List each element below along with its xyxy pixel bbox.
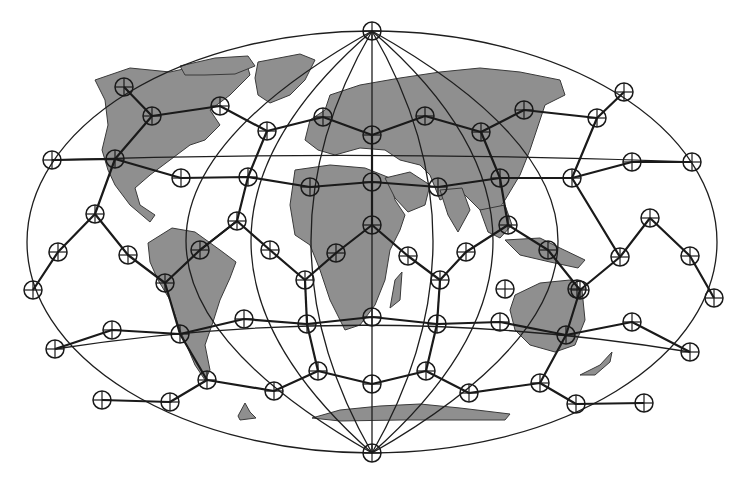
network-node [417,362,435,380]
network-node [115,78,133,96]
south-america [148,228,236,380]
network-node [161,393,179,411]
network-node [428,315,446,333]
network-node [93,391,111,409]
antarctica [312,404,510,421]
network-node [431,271,449,289]
network-node [156,274,174,292]
network-node [399,247,417,265]
network-node [327,244,345,262]
network-node [491,313,509,331]
network-node [563,169,581,187]
south-georgia-island [238,403,256,420]
network-node [568,280,586,298]
network-link [102,371,644,404]
network-node [472,123,490,141]
network-node [191,241,209,259]
network-node [228,212,246,230]
network-node [296,271,314,289]
network-node [681,343,699,361]
network-node [119,246,137,264]
network-node [623,153,641,171]
madagascar [390,272,402,308]
network-node [103,321,121,339]
north-pole-node [363,22,381,40]
network-node [615,83,633,101]
network-node [363,173,381,191]
indonesia [505,238,585,268]
network-node [301,178,319,196]
network-node [211,97,229,115]
network-node [198,371,216,389]
network-node [416,107,434,125]
network-node [531,374,549,392]
network-node [557,326,575,344]
network-node [143,107,161,125]
network-node [172,169,190,187]
network-node [49,243,67,261]
network-node [43,151,61,169]
network-node [681,247,699,265]
land-masses [95,54,612,421]
network-node [491,169,509,187]
network-link [200,221,237,250]
africa [290,165,405,330]
network-node [429,178,447,196]
network-node [265,382,283,400]
new-zealand [580,352,612,375]
network-node [86,205,104,223]
world-map [0,0,748,491]
network-node [623,313,641,331]
network-node [363,216,381,234]
network-node [460,384,478,402]
network-node [499,216,517,234]
network-node [457,243,475,261]
network-node [641,209,659,227]
north-america [95,58,250,222]
network-link [650,218,714,298]
network-node [258,122,276,140]
network-node [539,241,557,259]
network-node [309,362,327,380]
network-node [515,101,533,119]
network-node [363,375,381,393]
network-node [171,325,189,343]
network-node [363,126,381,144]
network-node [239,168,257,186]
network-node [496,280,514,298]
network-node [363,308,381,326]
network-node [24,281,42,299]
network-node [298,315,316,333]
network-node [567,395,585,413]
network-node [46,340,64,358]
network-node [635,394,653,412]
network-link [572,118,620,257]
network-node [235,310,253,328]
network-node [611,248,629,266]
network-node [705,289,723,307]
greenland [255,54,315,103]
south-pole-node [363,444,381,462]
network-node [683,153,701,171]
network-node [314,108,332,126]
network-node [261,241,279,259]
network-node [106,150,124,168]
network-node [588,109,606,127]
